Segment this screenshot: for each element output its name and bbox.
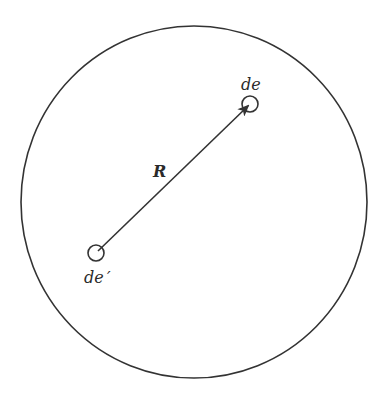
- outer-boundary-circle: [21, 26, 367, 378]
- distance-vector-arrow: [98, 106, 248, 251]
- distance-label: R: [152, 162, 166, 181]
- source-element-label: de ′: [84, 268, 111, 287]
- diagram-canvas: de de ′ R: [0, 0, 381, 398]
- charge-element-label: de: [241, 75, 261, 94]
